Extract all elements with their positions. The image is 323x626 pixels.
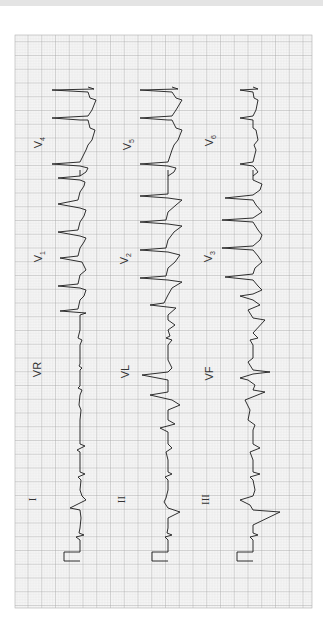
label-lead-V1: V1 [33, 251, 46, 262]
ecg-page: I VR V1 V4 II VL V2 V5 III VF V3 V6 [0, 0, 323, 626]
label-lead-V4: V4 [33, 137, 46, 148]
label-lead-VR: VR [32, 362, 43, 377]
label-lead-I: I [27, 498, 38, 502]
label-lead-V5: V5 [122, 139, 135, 150]
label-lead-V2: V2 [119, 253, 132, 264]
ecg-strip [0, 0, 323, 626]
label-lead-III: III [200, 494, 211, 505]
label-lead-VF: VF [204, 366, 215, 380]
label-lead-II: II [116, 496, 127, 503]
label-lead-VL: VL [120, 365, 131, 378]
label-lead-V6: V6 [204, 135, 217, 146]
label-lead-V3: V3 [203, 251, 216, 262]
